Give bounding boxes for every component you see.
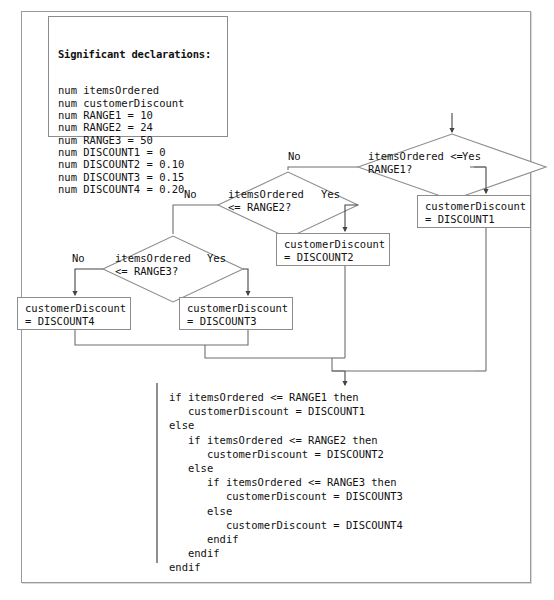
process-discount4: customerDiscount = DISCOUNT4 <box>17 297 131 330</box>
decision-range3-yes-label: Yes <box>207 252 226 264</box>
decision-range1-no-label: No <box>288 150 301 162</box>
figure-page: Significant declarations: num itemsOrder… <box>0 0 554 600</box>
decision-range3-no-label: No <box>72 252 85 264</box>
process-discount2: customerDiscount = DISCOUNT2 <box>276 233 390 266</box>
process-discount3: customerDiscount = DISCOUNT3 <box>179 297 293 330</box>
decision-range2-no-label: No <box>184 188 197 200</box>
decision-range3-text: itemsOrdered <= RANGE3? <box>115 252 191 278</box>
pseudocode-left-rule <box>156 383 158 563</box>
decision-range1-text: itemsOrdered <= RANGE1? <box>368 150 463 176</box>
declarations-header: Significant declarations: <box>58 48 221 60</box>
declarations-body: num itemsOrdered num customerDiscount nu… <box>58 84 221 195</box>
significant-declarations-box: Significant declarations: num itemsOrder… <box>48 16 228 137</box>
decision-range2-yes-label: Yes <box>321 188 340 200</box>
decision-range2-text: itemsOrdered <= RANGE2? <box>228 188 304 214</box>
process-discount1: customerDiscount = DISCOUNT1 <box>417 195 531 228</box>
pseudocode-block: if itemsOrdered <= RANGE1 then customerD… <box>169 390 403 575</box>
decision-range1-yes-label: Yes <box>462 150 481 162</box>
